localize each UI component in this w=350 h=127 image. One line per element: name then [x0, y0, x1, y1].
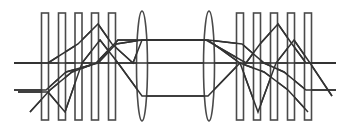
axis-bar-9 [288, 13, 295, 120]
lens-nodes [137, 11, 215, 121]
parallel-coordinates-figure [0, 0, 350, 127]
lens-node-2 [204, 11, 215, 121]
axis-bar-10 [305, 13, 312, 120]
lens-node-1 [137, 11, 148, 121]
axis-bar-2 [59, 13, 66, 120]
axis-bar-1 [42, 13, 49, 120]
flow-line-4-overlay [30, 40, 308, 112]
axis-bars-left [42, 13, 116, 120]
figure-canvas [0, 0, 350, 127]
axis-bar-5 [109, 13, 116, 120]
flow-line-4 [30, 40, 308, 112]
